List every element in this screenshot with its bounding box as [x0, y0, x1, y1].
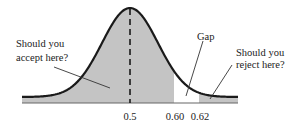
tick-label-0-62: 0.62: [191, 111, 209, 122]
tick-label-0-5: 0.5: [123, 111, 136, 122]
gap-leader-line: [186, 41, 203, 96]
reject-annotation-line1: Should you: [236, 47, 285, 58]
normal-curve-figure: Should you accept here? Gap Should you r…: [0, 0, 299, 126]
gap-annotation: Gap: [197, 31, 215, 42]
accept-annotation-line1: Should you: [16, 38, 65, 49]
reject-annotation-line2: reject here?: [236, 59, 285, 70]
accept-annotation-line2: accept here?: [16, 52, 69, 63]
reject-leader-line: [210, 65, 232, 99]
tick-label-0-60: 0.60: [166, 111, 184, 122]
